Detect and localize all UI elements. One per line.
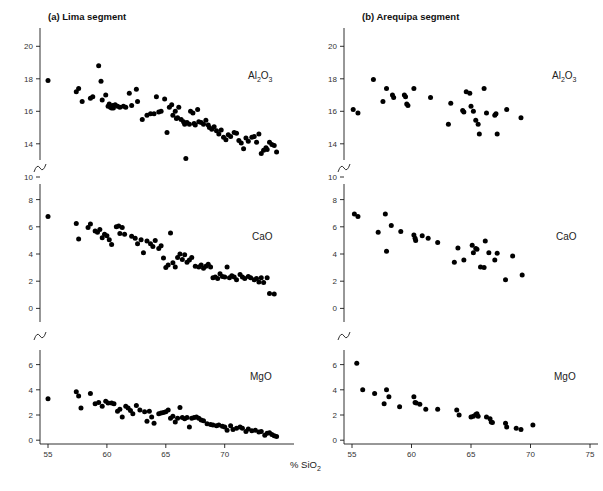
data-point xyxy=(97,227,102,232)
data-point xyxy=(187,424,192,429)
data-point xyxy=(88,391,93,396)
data-point xyxy=(168,230,173,235)
xtick-label: 55 xyxy=(348,450,357,459)
data-point xyxy=(467,91,472,96)
data-point xyxy=(274,149,279,154)
data-point xyxy=(117,231,122,236)
data-point xyxy=(482,265,487,270)
data-point xyxy=(175,416,180,421)
ytick-label: 0 xyxy=(333,304,338,313)
ytick-label: 8 xyxy=(333,196,338,205)
data-point xyxy=(384,249,389,254)
data-point xyxy=(225,428,230,433)
data-point xyxy=(259,275,264,280)
ytick-label: 4 xyxy=(333,386,338,395)
data-point xyxy=(208,264,213,269)
data-point xyxy=(133,236,138,241)
data-point xyxy=(420,233,425,238)
data-point xyxy=(413,238,418,243)
data-point xyxy=(223,137,228,142)
xtick-label: 65 xyxy=(161,450,170,459)
data-point xyxy=(96,400,101,405)
ytick-label: 16 xyxy=(328,107,337,116)
ytick-label: 2 xyxy=(29,277,34,286)
data-point xyxy=(177,252,182,257)
data-point xyxy=(474,247,479,252)
data-point xyxy=(256,132,261,137)
ytick-label: 20 xyxy=(328,42,337,51)
data-point xyxy=(493,111,498,116)
data-point xyxy=(159,109,164,114)
ytick-label-10: 10 xyxy=(328,173,337,182)
ytick-label: 16 xyxy=(24,107,33,116)
data-point xyxy=(129,103,134,108)
data-point xyxy=(391,95,396,100)
data-point xyxy=(173,109,178,114)
data-point xyxy=(228,134,233,139)
data-point xyxy=(448,101,453,106)
data-point xyxy=(90,94,95,99)
data-point xyxy=(78,406,83,411)
data-point xyxy=(471,109,476,114)
data-point xyxy=(130,411,135,416)
ytick-label: 6 xyxy=(333,223,338,232)
data-point xyxy=(177,405,182,410)
data-point xyxy=(476,414,481,419)
data-point xyxy=(195,107,200,112)
data-point xyxy=(96,63,101,68)
data-point xyxy=(74,389,79,394)
data-point xyxy=(518,115,523,120)
data-point xyxy=(476,122,481,127)
data-point xyxy=(173,264,178,269)
data-point xyxy=(122,232,127,237)
data-point xyxy=(384,387,389,392)
data-point xyxy=(246,139,251,144)
ytick-label: 0 xyxy=(333,436,338,445)
ytick-label: 4 xyxy=(333,250,338,259)
data-point xyxy=(371,77,376,82)
data-point xyxy=(477,132,482,137)
data-point xyxy=(100,404,105,409)
data-point xyxy=(403,94,408,99)
data-point xyxy=(520,273,525,278)
data-point xyxy=(150,244,155,249)
data-point xyxy=(215,276,220,281)
data-point xyxy=(490,420,495,425)
scatter-plot-canvas: (a) Lima segment Al2O3 2018161410 CaO 86… xyxy=(0,0,603,491)
data-point xyxy=(74,221,79,226)
data-point xyxy=(417,402,422,407)
data-point xyxy=(372,391,377,396)
data-point xyxy=(190,110,195,115)
data-point xyxy=(225,264,230,269)
ytick-label: 2 xyxy=(333,277,338,286)
data-point xyxy=(514,426,519,431)
data-point xyxy=(461,258,466,263)
data-point xyxy=(241,146,246,151)
data-point xyxy=(423,407,428,412)
data-point xyxy=(265,275,270,280)
ytick-label: 0 xyxy=(29,304,34,313)
data-point xyxy=(187,122,192,127)
data-point xyxy=(376,230,381,235)
data-point xyxy=(518,427,523,432)
data-point xyxy=(137,407,142,412)
data-point xyxy=(144,419,149,424)
data-point xyxy=(176,105,181,110)
data-point xyxy=(180,257,185,262)
data-point xyxy=(492,258,497,263)
data-point xyxy=(360,387,365,392)
data-point xyxy=(170,414,175,419)
data-point xyxy=(355,214,360,219)
data-point xyxy=(135,241,140,246)
data-point xyxy=(530,423,535,428)
data-point xyxy=(111,401,116,406)
ytick-label: 14 xyxy=(328,140,337,149)
data-point xyxy=(405,103,410,108)
data-point xyxy=(252,134,257,139)
data-point xyxy=(141,250,146,255)
data-point xyxy=(383,211,388,216)
data-point xyxy=(384,86,389,91)
data-point xyxy=(169,102,174,107)
data-point xyxy=(428,95,433,100)
ytick-label: 6 xyxy=(29,223,34,232)
